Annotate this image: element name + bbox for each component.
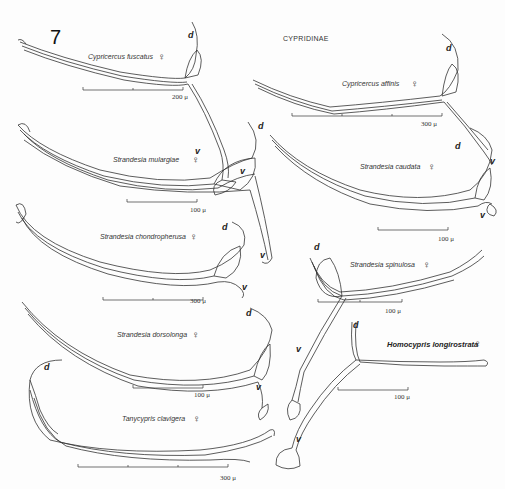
female-symbol: ♀ [411,78,419,89]
drawing-strandesia-dorsolonga [22,302,272,420]
ventral-marker: v [490,156,495,166]
ventral-marker: v [296,344,301,354]
ventral-marker: v [240,166,245,176]
scale-label: 100 μ [190,206,206,214]
ventral-marker: v [296,434,301,444]
scale-bar [318,299,402,302]
female-symbol: ♀ [190,231,198,242]
species-label: Homocypris longirostrata [387,340,478,349]
ventral-marker: v [242,282,247,292]
dorsal-marker: d [44,362,50,372]
ventral-marker: v [480,210,485,220]
ventral-marker: v [195,146,200,156]
female-symbol: ♀ [158,51,166,62]
dorsal-marker: d [446,43,452,53]
scale-label: 300 μ [190,297,206,305]
female-symbol: ♀ [428,161,436,172]
dorsal-marker: d [258,121,264,131]
scale-label: 100 μ [438,235,454,243]
species-label: Strandesia dorsolonga [117,331,187,338]
subfamily-heading: CYPRIDINAE [283,35,329,42]
scale-bar [127,199,197,202]
drawing-tanycypris-clavigera [29,360,274,462]
figure-plate: 7 CYPRIDINAE Cypricercus fuscatus ♀ 200 … [0,0,505,489]
species-label: Cypricercus fuscatus [88,53,153,60]
dorsal-marker: d [314,242,320,252]
dorsal-marker: d [246,308,252,318]
scale-label: 100 μ [394,393,410,401]
scale-bar [103,297,203,300]
dorsal-marker: d [455,141,461,151]
scale-bars [78,87,448,467]
scale-label: 300 μ [421,120,437,128]
drawing-strandesia-mulargiae [18,122,272,263]
ventral-marker: v [256,382,261,392]
figure-number: 7 [50,26,61,49]
drawing-strandesia-spinulosa [287,250,484,420]
scale-bar [83,87,183,90]
female-symbol: ♀ [193,413,201,424]
drawing-strandesia-caudata [270,128,496,216]
species-label: Strandesia spinulosa [350,261,415,268]
female-symbol: ♀ [423,259,431,270]
dorsal-marker: d [188,30,194,40]
ventral-marker: v [260,250,265,260]
species-label: Tanycypris clavigera [122,415,185,422]
female-symbol: ♀ [474,338,482,349]
species-label: Strandesia chondropherusa [100,233,186,240]
scale-label: 100 μ [194,391,210,399]
dorsal-marker: d [353,320,359,330]
drawings [0,0,505,489]
scale-bar [292,113,442,116]
scale-label: 300 μ [220,474,236,482]
species-label: Cypricercus affinis [342,80,399,87]
species-label: Strandesia caudata [360,163,420,170]
scale-label: 200 μ [172,93,188,101]
scale-bar [338,387,408,390]
dorsal-marker: d [222,222,228,232]
scale-bar [378,227,448,230]
species-label: Strandesia mulargiae [113,156,179,163]
female-symbol: ♀ [192,329,200,340]
scale-bar [78,464,228,467]
drawing-strandesia-chondropherusa [16,204,245,298]
scale-label: 100 μ [385,307,401,315]
